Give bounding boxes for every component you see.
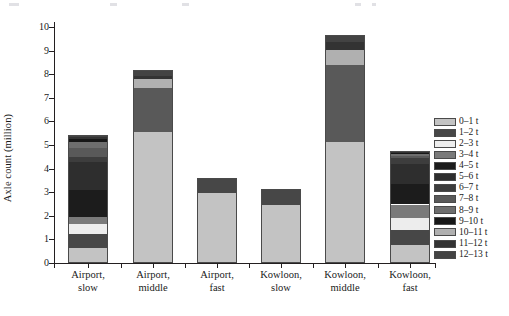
bar-segment[interactable] bbox=[133, 76, 173, 79]
bar-segment[interactable] bbox=[197, 178, 237, 193]
legend-item-label: 8–9 t bbox=[459, 206, 478, 216]
y-axis-tick bbox=[49, 51, 54, 52]
bar-segment[interactable] bbox=[325, 142, 365, 263]
legend-item-label: 9–10 t bbox=[459, 217, 483, 227]
x-axis-tick bbox=[378, 263, 379, 268]
legend-item[interactable]: 5–6 t bbox=[434, 171, 508, 182]
y-axis-tick-label: 8 bbox=[6, 69, 49, 79]
x-axis-tick bbox=[313, 263, 314, 268]
stacked-bar[interactable] bbox=[261, 189, 301, 263]
legend-color-swatch bbox=[434, 173, 456, 181]
y-axis-tick bbox=[49, 216, 54, 217]
bar-segment[interactable] bbox=[390, 151, 430, 152]
legend-color-swatch bbox=[434, 151, 456, 159]
y-axis-tick bbox=[49, 145, 54, 146]
y-axis-tick bbox=[49, 121, 54, 122]
bar-segment[interactable] bbox=[261, 205, 301, 263]
bar-segment[interactable] bbox=[390, 154, 430, 156]
y-axis-tick bbox=[49, 98, 54, 99]
bar-segment[interactable] bbox=[325, 65, 365, 142]
legend-color-swatch bbox=[434, 206, 456, 214]
y-axis-tick-label: 6 bbox=[6, 116, 49, 126]
bar-segment[interactable] bbox=[133, 79, 173, 88]
legend: 0–1 t1–2 t2–3 t3–4 t4–5 t5–6 t6–7 t7–8 t… bbox=[434, 116, 508, 260]
bar-segment[interactable] bbox=[390, 153, 430, 154]
scan-artifact-strip bbox=[0, 0, 509, 9]
stacked-bar[interactable] bbox=[325, 35, 365, 263]
legend-item-label: 2–3 t bbox=[459, 139, 478, 149]
y-axis-tick-labels: 012345678910 bbox=[0, 27, 49, 263]
stacked-bar[interactable] bbox=[197, 178, 237, 263]
bar-segment[interactable] bbox=[390, 152, 430, 153]
bar-segment[interactable] bbox=[390, 184, 430, 205]
bar-segment[interactable] bbox=[390, 156, 430, 158]
stacked-bar[interactable] bbox=[68, 135, 108, 263]
bar-segment[interactable] bbox=[133, 88, 173, 132]
y-axis-tick-label: 1 bbox=[6, 234, 49, 244]
x-axis-tick bbox=[153, 263, 154, 268]
bar-segment[interactable] bbox=[133, 70, 173, 75]
bar-segment[interactable] bbox=[68, 137, 108, 139]
y-axis-tick-label: 7 bbox=[6, 93, 49, 103]
stacked-bar[interactable] bbox=[133, 70, 173, 263]
bar-segment[interactable] bbox=[390, 245, 430, 263]
bar-segment[interactable] bbox=[390, 158, 430, 164]
legend-color-swatch bbox=[434, 162, 456, 170]
x-axis-category-label-line: fast bbox=[367, 282, 453, 295]
legend-item[interactable]: 10–11 t bbox=[434, 227, 508, 238]
bar-segment[interactable] bbox=[68, 234, 108, 249]
x-axis-tick bbox=[88, 263, 89, 268]
y-axis-tick-label: 2 bbox=[6, 211, 49, 221]
x-axis-tick bbox=[185, 263, 186, 268]
legend-item[interactable]: 0–1 t bbox=[434, 116, 508, 127]
stacked-bar[interactable] bbox=[390, 151, 430, 263]
legend-item[interactable]: 12–13 t bbox=[434, 249, 508, 260]
legend-item-label: 6–7 t bbox=[459, 183, 478, 193]
x-axis-tick bbox=[410, 263, 411, 268]
bar-segment[interactable] bbox=[390, 230, 430, 245]
legend-color-swatch bbox=[434, 195, 456, 203]
x-axis-tick bbox=[435, 263, 436, 268]
legend-item[interactable]: 2–3 t bbox=[434, 138, 508, 149]
bar-segment[interactable] bbox=[133, 132, 173, 263]
bar-segment[interactable] bbox=[68, 148, 108, 157]
legend-item[interactable]: 7–8 t bbox=[434, 194, 508, 205]
x-axis-tick bbox=[121, 263, 122, 268]
legend-item-label: 10–11 t bbox=[459, 228, 487, 238]
legend-item[interactable]: 6–7 t bbox=[434, 183, 508, 194]
figure-canvas: Axle count (million) 012345678910 Airpor… bbox=[0, 0, 509, 316]
bar-segment[interactable] bbox=[390, 164, 430, 183]
y-axis-tick bbox=[49, 27, 54, 28]
bar-segment[interactable] bbox=[197, 193, 237, 263]
legend-item-label: 5–6 t bbox=[459, 172, 478, 182]
legend-item[interactable]: 3–4 t bbox=[434, 149, 508, 160]
bar-segment[interactable] bbox=[68, 217, 108, 224]
legend-item[interactable]: 4–5 t bbox=[434, 160, 508, 171]
x-axis-tick bbox=[345, 263, 346, 268]
bar-segment[interactable] bbox=[68, 190, 108, 217]
bar-segment[interactable] bbox=[68, 157, 108, 163]
bar-segment[interactable] bbox=[68, 224, 108, 234]
x-axis-category-label: Kowloon,fast bbox=[367, 269, 453, 294]
x-axis-tick bbox=[54, 263, 55, 268]
bar-segment[interactable] bbox=[390, 218, 430, 230]
legend-item[interactable]: 11–12 t bbox=[434, 238, 508, 249]
legend-color-swatch bbox=[434, 251, 456, 259]
y-axis-tick bbox=[49, 74, 54, 75]
legend-color-swatch bbox=[434, 184, 456, 192]
legend-item[interactable]: 1–2 t bbox=[434, 127, 508, 138]
bar-segment[interactable] bbox=[325, 42, 365, 50]
legend-item[interactable]: 9–10 t bbox=[434, 216, 508, 227]
bar-segment[interactable] bbox=[68, 248, 108, 263]
bar-segment[interactable] bbox=[325, 50, 365, 65]
bar-segment[interactable] bbox=[325, 35, 365, 43]
bar-segment[interactable] bbox=[68, 162, 108, 190]
bar-segment[interactable] bbox=[68, 135, 108, 137]
bar-segment[interactable] bbox=[68, 139, 108, 143]
bar-segment[interactable] bbox=[390, 205, 430, 218]
legend-item-label: 0–1 t bbox=[459, 117, 478, 127]
legend-item[interactable]: 8–9 t bbox=[434, 205, 508, 216]
legend-item-label: 7–8 t bbox=[459, 194, 478, 204]
bar-segment[interactable] bbox=[68, 142, 108, 147]
bar-segment[interactable] bbox=[261, 189, 301, 205]
